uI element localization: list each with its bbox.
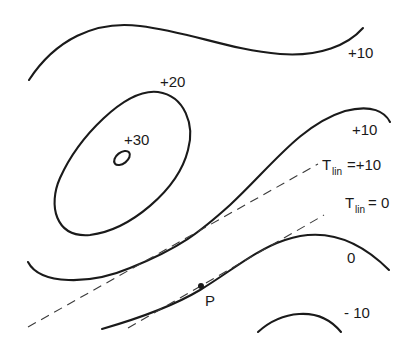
tlin-plus10-symbol: T [322, 156, 331, 173]
label-tlin-plus10: T lin =+10 [322, 156, 381, 177]
label-plus20: +20 [160, 73, 185, 90]
tlin-zero-line [128, 215, 324, 328]
tlin-zero-value: = 0 [368, 194, 389, 211]
contour-plus30 [112, 148, 133, 168]
label-minus10: - 10 [344, 304, 370, 321]
point-p-marker [198, 283, 204, 289]
label-plus30: +30 [124, 131, 149, 148]
label-tlin-zero: T lin = 0 [345, 194, 389, 215]
tlin-zero-subscript: lin [355, 204, 365, 215]
tlin-zero-symbol: T [345, 194, 354, 211]
tlin-plus10-subscript: lin [332, 166, 342, 177]
contour-top-plus10 [29, 25, 363, 80]
contour-right-plus10 [28, 108, 390, 280]
tlin-plus10-value: =+10 [347, 156, 381, 173]
label-zero: 0 [347, 249, 355, 266]
label-right-plus10: +10 [352, 121, 377, 138]
label-top-plus10: +10 [348, 44, 373, 61]
contour-minus10 [258, 314, 341, 332]
label-point-p: P [205, 292, 215, 309]
contour-diagram: +10 +20 +30 +10 0 - 10 P T lin =+10 T li… [0, 0, 413, 354]
